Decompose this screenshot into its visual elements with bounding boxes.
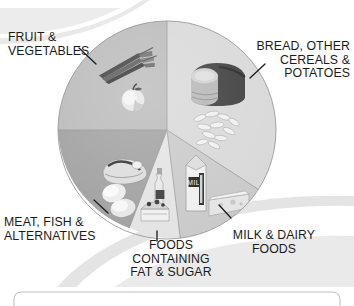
plate-sheen [58,21,276,239]
label-meat-fish-alternatives: MEAT, FISH & ALTERNATIVES [4,216,96,243]
label-fruit-vegetables: FRUIT & VEGETABLES [8,31,89,58]
label-bread-cereals-potatoes: BREAD, OTHER CEREALS & POTATOES [257,40,350,81]
label-foods-containing-fat-and-sugar: FOODS CONTAINING FAT & SUGAR [112,239,230,280]
diagram-canvas: MILK [0,0,354,306]
